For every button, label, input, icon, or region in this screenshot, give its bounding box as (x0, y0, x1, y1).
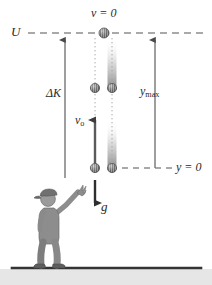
person-shoe-left (34, 264, 46, 268)
label-velocity-zero: v = 0 (91, 7, 116, 19)
label-delta-kinetic-energy: ΔK (46, 87, 61, 99)
label-max-height-subscript: max (145, 90, 159, 99)
label-potential-energy: U (11, 25, 20, 38)
physics-diagram-figure: U v = 0 ΔK ymax vo y = 0 g (0, 0, 212, 285)
label-initial-velocity: vo (75, 114, 84, 128)
label-max-height: ymax (140, 85, 159, 99)
person-shoe-right (53, 264, 66, 268)
person-cap (40, 189, 57, 196)
label-initial-velocity-subscript: o (80, 119, 84, 128)
person-figure (34, 185, 86, 268)
ground-fill (0, 269, 212, 285)
ground-group (0, 268, 212, 285)
ball (107, 83, 116, 92)
diagram-canvas (0, 0, 212, 285)
ball (107, 163, 116, 172)
label-gravity: g (101, 200, 108, 213)
ball (90, 83, 99, 92)
ball (90, 163, 99, 172)
ball-apex (99, 28, 109, 38)
person-leg-right (55, 242, 57, 265)
label-origin-level: y = 0 (176, 161, 201, 173)
person-cap-brim (34, 196, 41, 199)
person-leg-left (41, 242, 43, 265)
